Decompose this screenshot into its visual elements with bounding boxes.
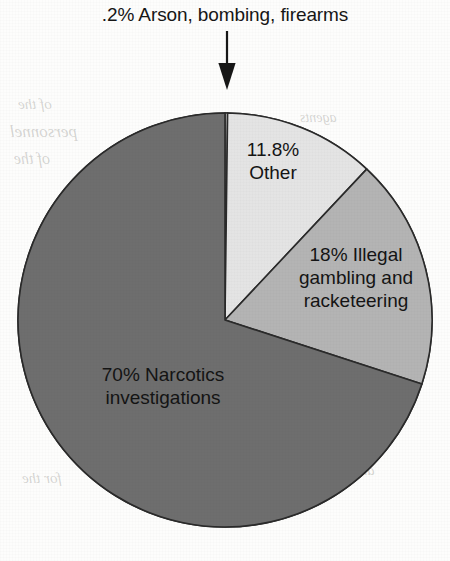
pie-chart-figure: of the personnel of the for the and the … (0, 0, 450, 561)
slice-label-narcotics-investigations: 70% Narcotics investigations (82, 363, 244, 409)
callout-title: .2% Arson, bombing, firearms (0, 3, 450, 26)
slice-label-illegal-gambling-racketeering: 18% Illegal gambling and racketeering (283, 243, 429, 312)
slice-label-other: 11.8% Other (214, 138, 332, 184)
down-arrow-icon (205, 30, 249, 92)
